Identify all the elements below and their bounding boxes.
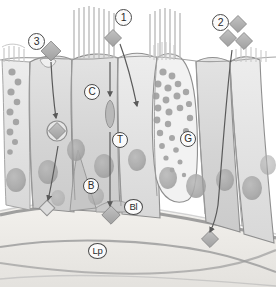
granule xyxy=(164,84,171,91)
nucleus xyxy=(67,139,85,161)
label-lp-text: Lp xyxy=(92,246,102,256)
granule xyxy=(159,68,166,75)
granule xyxy=(186,101,192,107)
callout-1-label: 1 xyxy=(121,12,127,23)
granule xyxy=(166,109,173,116)
granule xyxy=(170,168,175,173)
granule xyxy=(175,81,182,88)
callout-2-label: 2 xyxy=(218,17,224,28)
figure-canvas: 1 2 3 C T G B Bl Lp xyxy=(0,0,276,287)
label-c-text: C xyxy=(88,87,95,97)
label-g-text: G xyxy=(184,134,192,144)
callout-2[interactable]: 2 xyxy=(212,14,229,31)
nucleus xyxy=(260,155,276,175)
callout-3[interactable]: 3 xyxy=(28,33,45,50)
nucleus xyxy=(6,168,26,192)
nucleus xyxy=(242,176,262,200)
granule xyxy=(174,93,181,100)
transcytosis-body xyxy=(106,100,115,128)
granule xyxy=(8,68,15,75)
granule xyxy=(12,139,18,145)
callout-3-label: 3 xyxy=(34,36,40,47)
label-t-text: T xyxy=(117,135,123,145)
granule xyxy=(182,173,186,177)
label-lp[interactable]: Lp xyxy=(88,243,107,259)
label-bl[interactable]: Bl xyxy=(124,199,143,215)
granule xyxy=(155,105,162,112)
granule xyxy=(169,135,175,141)
label-c[interactable]: C xyxy=(84,84,100,100)
label-t[interactable]: T xyxy=(112,132,128,148)
granule xyxy=(187,115,193,121)
granule xyxy=(163,97,170,104)
label-b-text: B xyxy=(88,181,94,191)
granule xyxy=(163,155,168,160)
granule xyxy=(169,73,176,80)
nucleus xyxy=(128,149,146,171)
granule xyxy=(7,149,13,155)
granule xyxy=(7,129,14,136)
granule xyxy=(15,79,22,86)
granule xyxy=(14,99,21,106)
granule xyxy=(178,160,183,165)
granule xyxy=(157,130,163,136)
granule xyxy=(177,105,184,112)
granule xyxy=(13,119,19,125)
label-g[interactable]: G xyxy=(180,131,196,147)
callout-1[interactable]: 1 xyxy=(115,9,132,26)
granule xyxy=(153,93,160,100)
granule xyxy=(173,147,179,153)
granule xyxy=(7,109,14,116)
nucleus xyxy=(51,190,65,206)
nucleus xyxy=(216,169,234,191)
label-b[interactable]: B xyxy=(83,178,99,194)
nucleus xyxy=(94,154,114,178)
granule xyxy=(7,88,14,95)
label-bl-text: Bl xyxy=(129,202,137,212)
vesicle-with-particle xyxy=(47,121,67,141)
granule xyxy=(159,143,165,149)
granule xyxy=(165,121,171,127)
granule xyxy=(183,89,189,95)
